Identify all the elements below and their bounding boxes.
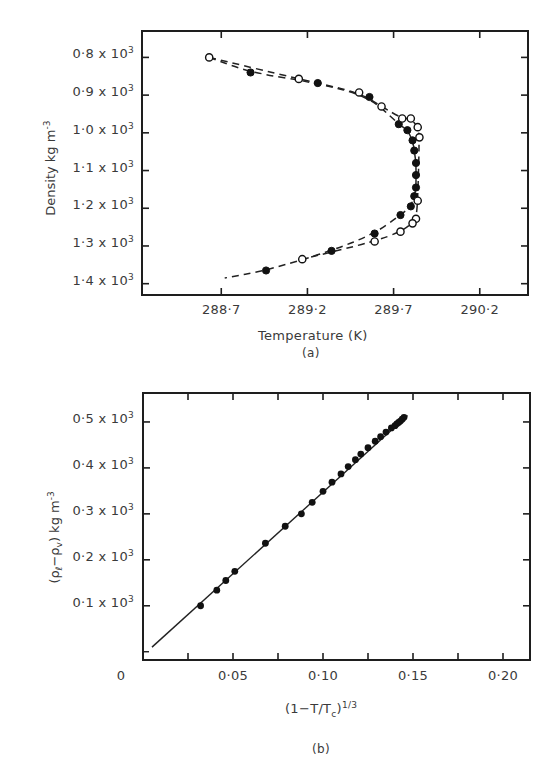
open-data-point [371, 238, 378, 245]
y-tick-label: 1·0 x 103 [32, 121, 134, 137]
x-tick-label: 0 [91, 668, 151, 683]
chart-b-x-label-exponent: 1/3 [342, 700, 357, 710]
chart-b-y-label-rho: (ρ [47, 570, 62, 583]
chart-a: Density kg m-3 0·8 x 1030·9 x 1031·0 x 1… [0, 0, 559, 360]
y-tick-label: 0·2 x 103 [32, 548, 134, 564]
data-point [365, 444, 372, 451]
filled-data-point [409, 137, 416, 144]
y-tick-label: 1·4 x 103 [32, 272, 134, 288]
x-tick-label: 0·10 [293, 668, 353, 683]
x-tick-label: 289·7 [364, 302, 424, 317]
data-point [231, 568, 238, 575]
open-data-point [414, 124, 421, 131]
filled-data-point [262, 267, 269, 274]
filled-data-point [404, 127, 411, 134]
data-point [213, 587, 220, 594]
data-point [197, 602, 204, 609]
data-point [377, 433, 384, 440]
data-point [345, 463, 352, 470]
filled-series-dashed-curve [209, 57, 416, 278]
y-tick-label: 0·4 x 103 [32, 456, 134, 472]
filled-data-point [314, 79, 321, 86]
open-data-point [206, 54, 213, 61]
y-tick-label: 0·8 x 103 [32, 45, 134, 61]
plot-frame [142, 31, 528, 295]
open-data-point [414, 197, 421, 204]
x-tick-label: 0·20 [473, 668, 533, 683]
chart-a-x-axis-label: Temperature (K) [258, 328, 368, 343]
open-data-point [397, 228, 404, 235]
open-data-point [295, 75, 302, 82]
filled-data-point [397, 211, 404, 218]
filled-data-point [371, 230, 378, 237]
chart-b-x-label-main: (1−T/T [285, 701, 331, 716]
chart-a-caption: (a) [302, 346, 320, 360]
filled-data-point [366, 93, 373, 100]
data-point [383, 429, 390, 436]
chart-b-y-axis-label: (ρℓ−ρv) kg m-3 [46, 462, 65, 612]
open-data-point [378, 103, 385, 110]
chart-b-caption: (b) [312, 742, 330, 756]
data-point [352, 456, 359, 463]
filled-data-point [412, 184, 419, 191]
data-point [320, 488, 327, 495]
open-data-point [299, 256, 306, 263]
filled-data-point [247, 69, 254, 76]
data-point [282, 523, 289, 530]
open-data-point [356, 89, 363, 96]
x-tick-label: 0·05 [203, 668, 263, 683]
open-data-point [416, 134, 423, 141]
chart-b-y-label-sub-v: v [54, 542, 64, 547]
open-data-point [409, 220, 416, 227]
chart-b-y-label-exponent: -3 [46, 491, 56, 500]
filled-data-point [407, 203, 414, 210]
filled-data-point [412, 159, 419, 166]
x-tick-label: 0·15 [383, 668, 443, 683]
data-point [338, 470, 345, 477]
y-tick-label: 1·3 x 103 [32, 234, 134, 250]
open-series-dashed-curve [209, 57, 419, 259]
data-point [357, 451, 364, 458]
chart-b-x-axis-label: (1−T/Tc)1/3 [285, 700, 357, 719]
y-tick-label: 0·3 x 103 [32, 502, 134, 518]
y-tick-label: 0·1 x 103 [32, 594, 134, 610]
data-point [298, 510, 305, 517]
data-point [309, 499, 316, 506]
data-point [262, 540, 269, 547]
y-tick-label: 1·1 x 103 [32, 159, 134, 175]
open-data-point [407, 115, 414, 122]
y-tick-label: 0·9 x 103 [32, 83, 134, 99]
x-tick-label: 289·2 [277, 302, 337, 317]
data-point [222, 577, 229, 584]
chart-b-y-label-sub-l: ℓ [54, 567, 64, 571]
plot-frame [143, 393, 530, 660]
x-tick-label: 288·7 [191, 302, 251, 317]
x-tick-label: 290·2 [450, 302, 510, 317]
open-data-point [399, 115, 406, 122]
filled-data-point [412, 171, 419, 178]
data-point [372, 438, 379, 445]
chart-b-plot-area [0, 370, 559, 768]
filled-data-point [411, 147, 418, 154]
filled-data-point [328, 247, 335, 254]
data-point [401, 414, 408, 421]
y-tick-label: 0·5 x 103 [32, 410, 134, 426]
chart-b: (ρℓ−ρv) kg m-3 0·1 x 1030·2 x 1030·3 x 1… [0, 370, 559, 768]
data-point [329, 479, 336, 486]
y-tick-label: 1·2 x 103 [32, 196, 134, 212]
